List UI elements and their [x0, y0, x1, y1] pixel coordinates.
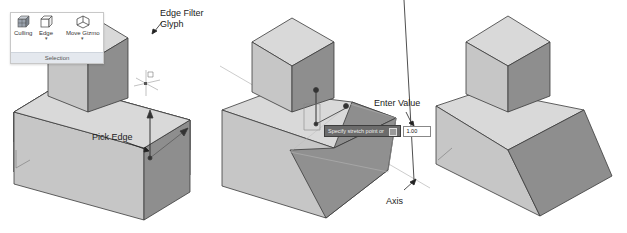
move-gizmo-dropdown-caret-icon[interactable]: ▾	[66, 36, 100, 40]
model-result	[436, 16, 612, 216]
edge-dropdown-caret-icon[interactable]: ▾	[39, 36, 53, 40]
ribbon-selection-panel: Culling Edge ▾ Move Gizmo ▾ Selection	[10, 12, 104, 64]
options-menu-icon[interactable]	[389, 128, 397, 136]
callout-line-1: Edge Filter	[160, 8, 204, 19]
panel-title: Selection	[11, 52, 103, 63]
callout-arrows-2	[404, 0, 416, 190]
culling-icon	[16, 15, 30, 29]
enter-value-callout: Enter Value	[374, 98, 420, 109]
model-stretching	[220, 18, 430, 218]
edge-filter-glyph-callout: Edge Filter Glyph	[160, 8, 204, 30]
edge-button[interactable]: Edge ▾	[39, 15, 53, 40]
command-prompt: Specify stretch point or	[324, 125, 401, 137]
move-gizmo-icon	[76, 15, 90, 29]
callout-line-2: Glyph	[160, 19, 204, 30]
edge-cube-icon	[39, 15, 53, 29]
culling-label: Culling	[14, 30, 32, 36]
move-gizmo-button[interactable]: Move Gizmo ▾	[66, 15, 100, 40]
command-prompt-text: Specify stretch point or	[328, 128, 384, 134]
culling-button[interactable]: Culling	[14, 15, 32, 36]
pick-edge-callout: Pick Edge	[92, 132, 133, 143]
dynamic-input-prompt: Specify stretch point or 1.00	[324, 126, 431, 136]
axis-callout: Axis	[386, 196, 403, 207]
value-input[interactable]: 1.00	[403, 126, 431, 137]
